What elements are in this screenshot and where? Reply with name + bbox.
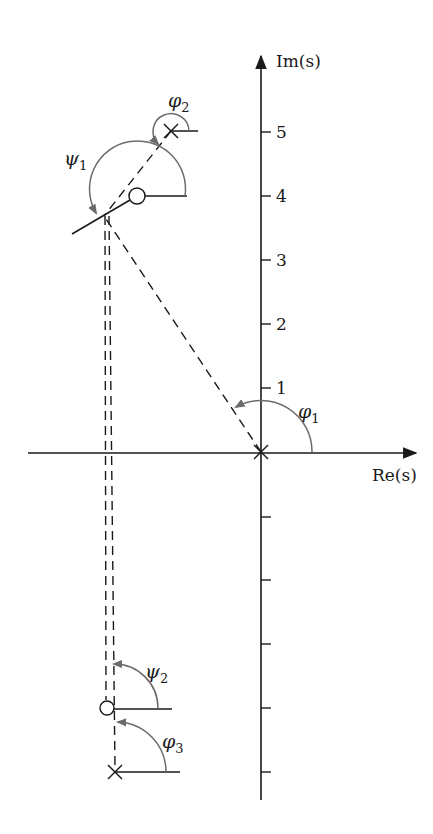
root-locus-figure: 1 2 3 4 5 Im(s) Re(s) [0, 0, 433, 834]
test-point-segment [72, 200, 130, 234]
tick-label-1: 1 [276, 378, 287, 398]
phi1-label: φ1 [298, 400, 320, 426]
phi2-label: φ2 [168, 89, 190, 115]
tick-label-2: 2 [276, 314, 287, 334]
psi2-label: ψ2 [145, 660, 168, 686]
phi3-label: φ3 [162, 730, 184, 756]
phi2-arc [153, 114, 189, 144]
zero-lower-circle-icon [100, 701, 114, 715]
imaginary-axis [261, 56, 271, 800]
imag-ticks [261, 132, 271, 772]
zero-upper-circle-icon [129, 188, 145, 204]
real-axis-label: Re(s) [372, 465, 417, 485]
phi3-arc [118, 722, 166, 772]
tick-label-3: 3 [276, 250, 287, 270]
psi1-label: ψ1 [64, 147, 87, 173]
tick-label-5: 5 [276, 122, 287, 142]
imag-axis-label: Im(s) [276, 51, 321, 71]
tick-label-4: 4 [276, 186, 287, 206]
dashed-vectors [104, 131, 261, 770]
